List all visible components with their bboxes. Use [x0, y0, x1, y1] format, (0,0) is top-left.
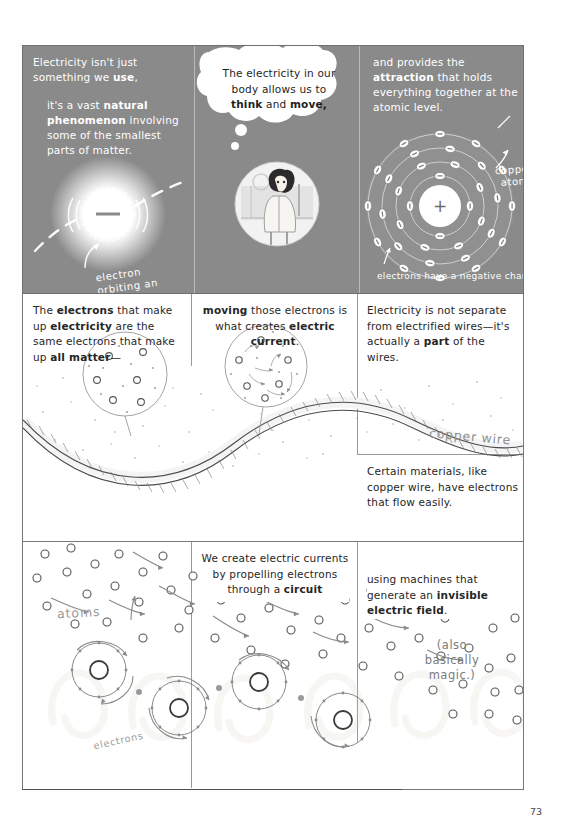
- r2p1-a: The: [33, 304, 57, 316]
- panel-2-line-1: The electricity in our: [223, 67, 336, 79]
- page-number: 73: [530, 806, 542, 817]
- row2-panel-3-text: Electricity is not separate from electri…: [367, 303, 517, 365]
- aside-also-basically-magic-text: (also basically magic.): [425, 638, 480, 682]
- r2p2-b: .: [296, 335, 300, 347]
- row3-panel-3-text: using machines that generate an invisibl…: [367, 572, 497, 619]
- r3p2-a: We create electric currents by propellin…: [201, 552, 348, 595]
- label-copper-atom: copper atom: [484, 150, 524, 190]
- row2-panel-1-paragraph: The electrons that make up electricity a…: [33, 303, 185, 365]
- panel-1-text-d: it's a vast: [47, 99, 103, 111]
- label-atoms: atoms: [57, 605, 101, 620]
- panel-3-bold-attraction: attraction: [373, 71, 434, 83]
- label-negative-charge: electrons have a negative charge: [377, 270, 524, 283]
- row2-panel-4-paragraph: Certain materials, like copper wire, hav…: [367, 464, 519, 511]
- panel-2-bold-move: move,: [290, 98, 327, 110]
- row3-panel-2-paragraph: We create electric currents by propellin…: [201, 551, 349, 598]
- panel-2-bold-think: think: [231, 98, 263, 110]
- caption-electron-orbit-text: electron orbiting an atom: [95, 266, 159, 294]
- r2p1-bold-electrons: electrons: [57, 304, 114, 316]
- r3p3-b: .: [444, 604, 448, 616]
- panel-1-text: Electricity isn't just something we use,…: [33, 55, 188, 158]
- r2p3-bold-part: part: [424, 335, 450, 347]
- row2-panel-3-paragraph: Electricity is not separate from electri…: [367, 303, 517, 365]
- row2-panel-1-text: The electrons that make up electricity a…: [33, 303, 185, 365]
- label-atoms-text: atoms: [57, 604, 101, 621]
- row2-panel-2-paragraph: moving those electrons is what creates e…: [201, 303, 349, 350]
- row3-panel-2-text: We create electric currents by propellin…: [201, 551, 349, 602]
- panel-1-line-1: Electricity isn't just something we use,: [33, 55, 188, 85]
- label-negative-charge-text: electrons have a negative charge: [377, 271, 524, 281]
- row-3: atoms electrons We create electric curre…: [22, 542, 524, 790]
- bottom-rule: [22, 789, 402, 791]
- row-1: Electricity isn't just something we use,…: [22, 45, 524, 294]
- panel-1-line-2: it's a vast natural phenomenon involving…: [33, 98, 188, 158]
- panel-3-text: and provides the attraction that holds e…: [373, 55, 518, 115]
- panel-2-line-2: body allows us to: [232, 83, 327, 95]
- row2-panel-4-text: Certain materials, like copper wire, hav…: [367, 464, 519, 511]
- aside-also-basically-magic: (also basically magic.): [409, 638, 495, 683]
- panel-2-and: and: [263, 98, 290, 110]
- panel-3-paragraph: and provides the attraction that holds e…: [373, 55, 518, 115]
- panel-1-text-b: something we: [33, 71, 113, 83]
- r3p2-bold-circuit: circuit: [284, 583, 323, 595]
- row3-panel-3-paragraph: using machines that generate an invisibl…: [367, 572, 497, 619]
- panel-1-text-a: Electricity isn't just: [33, 56, 137, 68]
- r2p1-bold-all-matter: all matter: [50, 351, 110, 363]
- r2p2-bold-moving: moving: [203, 304, 248, 316]
- r2p1-bold-electricity: electricity: [50, 320, 112, 332]
- panel-1-bold-use: use: [113, 71, 134, 83]
- r2p1-d: —: [111, 351, 122, 363]
- panel-1-text-c: ,: [134, 71, 138, 83]
- comic-page: Electricity isn't just something we use,…: [0, 0, 566, 831]
- label-copper-atom-text: copper atom: [495, 163, 524, 188]
- row2-panel-2-text: moving those electrons is what creates e…: [201, 303, 349, 350]
- panel-3-text-a: and provides the: [373, 56, 465, 68]
- panel-2-bubble-text: The electricity in our body allows us to…: [209, 66, 349, 113]
- svg-text:+: +: [433, 196, 447, 216]
- panel-2-text: The electricity in our body allows us to…: [209, 66, 349, 113]
- row-2: The electrons that make up electricity a…: [22, 294, 524, 542]
